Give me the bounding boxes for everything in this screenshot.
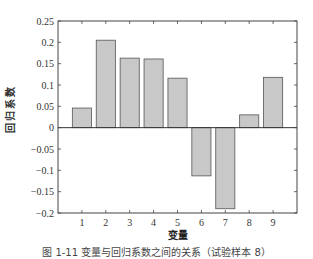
bar-9 bbox=[264, 77, 283, 127]
y-tick-label: 0.2 bbox=[42, 37, 55, 48]
y-tick-label: −0.05 bbox=[31, 144, 54, 155]
bar-7 bbox=[216, 128, 235, 209]
y-tick-label: 0.05 bbox=[37, 101, 55, 112]
x-tick-label: 8 bbox=[247, 217, 252, 228]
x-tick-label: 4 bbox=[151, 217, 156, 228]
x-tick-label: 6 bbox=[199, 217, 204, 228]
bar-2 bbox=[96, 40, 115, 127]
y-tick-label: −0.2 bbox=[36, 208, 54, 219]
y-tick-label: 0.1 bbox=[42, 80, 55, 91]
y-tick-label: 0 bbox=[49, 122, 54, 133]
y-axis-label: 数系归回 bbox=[4, 86, 18, 134]
bar-1 bbox=[72, 108, 91, 128]
bar-6 bbox=[192, 128, 211, 176]
y-tick-label: −0.15 bbox=[31, 186, 54, 197]
figure-caption: 图 1-11 变量与回归系数之间的关系（试验样本 8） bbox=[0, 244, 313, 259]
y-tick-label: −0.1 bbox=[36, 165, 54, 176]
bar-5 bbox=[168, 78, 187, 127]
bar-3 bbox=[120, 58, 139, 128]
x-tick-label: 9 bbox=[271, 217, 276, 228]
x-axis-label: 变量 bbox=[168, 229, 188, 241]
x-tick-label: 7 bbox=[223, 217, 228, 228]
x-tick-label: 5 bbox=[175, 217, 180, 228]
bar-8 bbox=[240, 115, 259, 128]
x-tick-label: 2 bbox=[103, 217, 108, 228]
x-tick-label: 3 bbox=[127, 217, 132, 228]
bars-group bbox=[72, 40, 282, 209]
x-tick-label: 1 bbox=[79, 217, 84, 228]
bar-4 bbox=[144, 59, 163, 128]
y-tick-label: 0.15 bbox=[37, 58, 55, 69]
y-tick-label: 0.25 bbox=[37, 16, 55, 27]
